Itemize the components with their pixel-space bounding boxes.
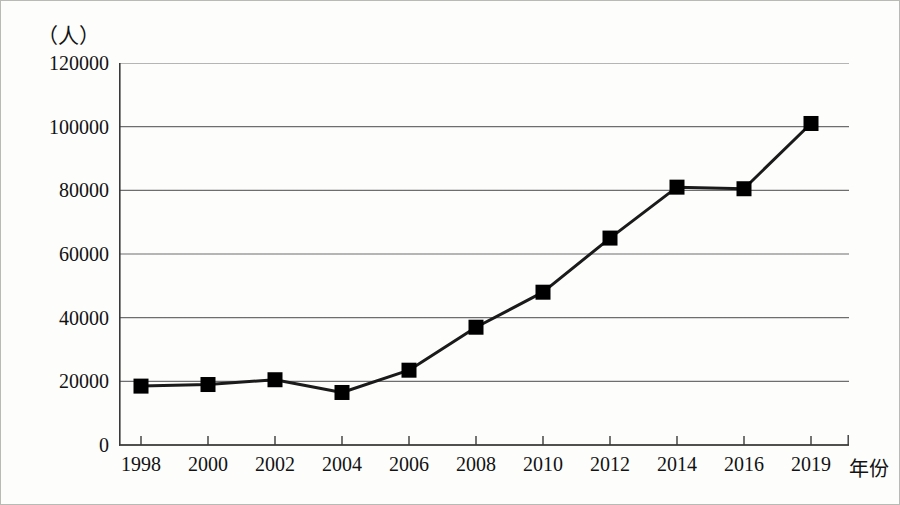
data-point-markers xyxy=(134,116,819,400)
y-tick-label: 40000 xyxy=(9,306,109,329)
data-point-marker xyxy=(201,377,216,392)
y-tick-label: 20000 xyxy=(9,370,109,393)
x-tick-label: 2019 xyxy=(791,453,831,476)
y-tick-label: 100000 xyxy=(9,115,109,138)
y-tick-label: 120000 xyxy=(9,52,109,75)
x-tick-label: 2016 xyxy=(724,453,764,476)
data-point-marker xyxy=(335,385,350,400)
data-point-marker xyxy=(536,285,551,300)
data-point-marker xyxy=(737,181,752,196)
x-tick-label: 2012 xyxy=(590,453,630,476)
data-point-marker xyxy=(804,116,819,131)
y-tick-label: 80000 xyxy=(9,179,109,202)
data-point-marker xyxy=(268,372,283,387)
y-tick-label: 60000 xyxy=(9,243,109,266)
x-tick-label: 2008 xyxy=(456,453,496,476)
data-point-marker xyxy=(469,320,484,335)
data-point-marker xyxy=(402,363,417,378)
data-point-marker xyxy=(134,379,149,394)
x-axis-tick-marks xyxy=(141,436,811,445)
plot-area xyxy=(119,63,849,451)
data-point-marker xyxy=(603,231,618,246)
data-point-marker xyxy=(670,180,685,195)
x-axis-title: 年份 xyxy=(849,453,889,482)
data-line xyxy=(141,123,811,392)
x-tick-label: 2004 xyxy=(322,453,362,476)
y-axis-unit-label: （人） xyxy=(37,19,100,49)
x-tick-label: 2014 xyxy=(657,453,697,476)
y-axis-tick-labels: 020000400006000080000100000120000 xyxy=(1,63,109,451)
x-tick-label: 2002 xyxy=(255,453,295,476)
x-tick-label: 2006 xyxy=(389,453,429,476)
line-chart-svg xyxy=(119,63,849,451)
chart-page: （人） 020000400006000080000100000120000 19… xyxy=(0,0,900,505)
x-tick-label: 2000 xyxy=(188,453,228,476)
x-tick-label: 1998 xyxy=(121,453,161,476)
x-axis-tick-labels: 1998200020022004200620082010201220142016… xyxy=(119,453,849,487)
y-tick-label: 0 xyxy=(9,434,109,457)
gridlines xyxy=(119,63,849,445)
x-tick-label: 2010 xyxy=(523,453,563,476)
